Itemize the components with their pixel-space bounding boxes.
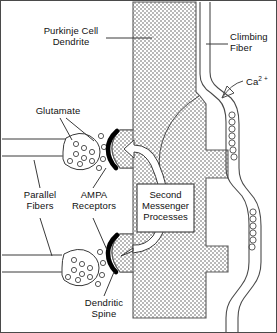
- calcium-charge: 2 +: [258, 75, 268, 82]
- box-line-2: Messenger: [137, 200, 194, 211]
- label-climbing-fiber: Climbing Fiber: [230, 32, 276, 53]
- leader-dendritic-spine: [104, 272, 114, 296]
- label-parallel-fibers: Parallel Fibers: [10, 190, 70, 211]
- label-ampa-receptors: AMPA Receptors: [62, 190, 126, 211]
- label-calcium-ion: Ca2 +: [246, 74, 277, 88]
- leader-parallel-fibers-up: [34, 160, 40, 188]
- calcium-vesicles-upper: [229, 112, 237, 160]
- label-dendritic-spine: Dendritic Spine: [66, 298, 142, 319]
- calcium-symbol: Ca: [246, 76, 258, 87]
- calcium-vesicles-lower: [249, 209, 256, 250]
- leader-parallel-fibers-down: [40, 218, 52, 256]
- label-second-messenger-processes: Second Messenger Processes: [137, 189, 194, 222]
- box-line-1: Second: [137, 189, 194, 200]
- leader-ampa-down: [93, 218, 107, 250]
- label-purkinje-cell-dendrite: Purkinje Cell Dendrite: [34, 26, 108, 47]
- figure-canvas: Purkinje Cell Dendrite Climbing Fiber Ca…: [0, 0, 277, 333]
- box-line-3: Processes: [137, 211, 194, 222]
- leader-ampa-up: [93, 168, 106, 188]
- label-glutamate: Glutamate: [20, 106, 96, 117]
